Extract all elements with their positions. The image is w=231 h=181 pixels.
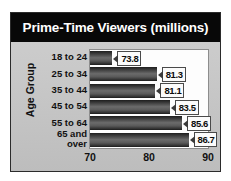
category-label-line: 35 to 44 (33, 85, 87, 95)
bar-row: 73.8 (90, 50, 208, 66)
category-label-line: 18 to 24 (33, 52, 87, 62)
y-axis-category-label: 18 to 24 (33, 52, 87, 62)
category-label-line: over (33, 139, 87, 149)
category-label-line: 55 to 64 (33, 118, 87, 128)
y-axis-category-label: 65 andover (33, 129, 87, 148)
bar (90, 51, 112, 65)
bar (90, 100, 170, 114)
callout-pointer-icon (171, 104, 176, 112)
callout-pointer-icon (190, 136, 195, 144)
y-axis-category-label: 55 to 64 (33, 118, 87, 128)
bar-value-label: 73.8 (121, 53, 138, 64)
callout-pointer-icon (156, 87, 161, 95)
bar-value-callout: 85.6 (187, 116, 211, 131)
bar-value-label: 85.6 (191, 118, 208, 129)
bar-value-callout: 81.1 (160, 83, 184, 98)
bar-row: 81.1 (90, 83, 208, 99)
bar-value-label: 86.7 (198, 134, 215, 145)
callout-pointer-icon (183, 120, 188, 128)
y-axis-category-label: 25 to 34 (33, 69, 87, 79)
bar-value-callout: 81.3 (162, 67, 186, 82)
callout-pointer-icon (158, 71, 163, 79)
bar-row: 83.5 (90, 99, 208, 115)
bar (90, 116, 182, 130)
chart-panel: Prime-Time Viewers (millions) Age Group … (10, 12, 221, 172)
y-axis-category-label: 35 to 44 (33, 85, 87, 95)
y-axis-category-label: 45 to 54 (33, 101, 87, 111)
chart-title: Prime-Time Viewers (millions) (23, 20, 209, 35)
plot-area: 73.881.381.183.585.686.7 (89, 49, 209, 149)
chart-body: Age Group 18 to 2425 to 3435 to 4445 to … (11, 42, 220, 171)
category-label-line: 45 to 54 (33, 101, 87, 111)
chart-title-banner: Prime-Time Viewers (millions) (11, 13, 220, 42)
bar-value-callout: 86.7 (194, 132, 218, 147)
bar (90, 84, 155, 98)
bar (90, 133, 189, 147)
x-axis-tick-label: 80 (134, 151, 164, 163)
bar-value-callout: 73.8 (117, 51, 141, 66)
callout-pointer-icon (113, 55, 118, 63)
bar-row: 86.7 (90, 132, 208, 148)
bar-value-label: 81.1 (164, 85, 181, 96)
bar-row: 85.6 (90, 115, 208, 131)
bar-row: 81.3 (90, 66, 208, 82)
bar-value-label: 81.3 (166, 69, 183, 80)
x-axis-tick-label: 90 (193, 151, 221, 163)
x-axis-tick-labels: 708090 (89, 151, 209, 165)
x-axis-tick-label: 70 (75, 151, 105, 163)
category-label-line: 25 to 34 (33, 69, 87, 79)
bar-value-callout: 83.5 (175, 100, 199, 115)
bar (90, 67, 157, 81)
y-axis-category-labels: 18 to 2425 to 3435 to 4445 to 5455 to 64… (33, 49, 87, 147)
bar-value-label: 83.5 (179, 102, 196, 113)
